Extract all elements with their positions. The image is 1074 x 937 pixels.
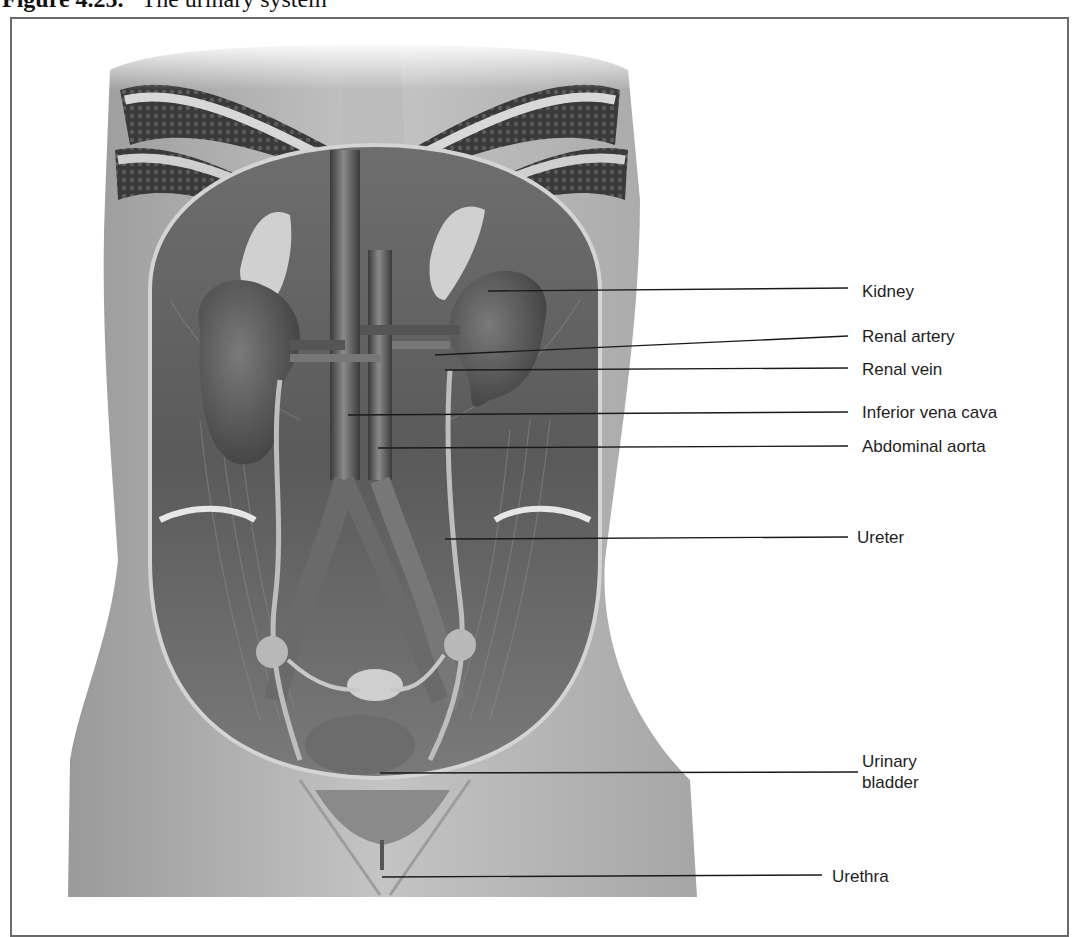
label-renal-artery: Renal artery xyxy=(862,326,955,347)
abdominal-aorta-shape xyxy=(368,250,392,480)
label-abdominal-aorta: Abdominal aorta xyxy=(862,436,986,457)
label-urinary-bladder: Urinary bladder xyxy=(862,751,952,793)
inferior-vena-cava-shape xyxy=(330,150,360,480)
label-ureter: Ureter xyxy=(857,527,904,548)
leader-line-urinary-bladder xyxy=(380,772,858,773)
label-kidney: Kidney xyxy=(862,281,914,302)
label-inferior-vena-cava: Inferior vena cava xyxy=(862,402,997,423)
urethra-shape xyxy=(380,840,384,870)
label-renal-vein: Renal vein xyxy=(862,359,942,380)
urinary-bladder-shape xyxy=(305,715,415,775)
label-urethra: Urethra xyxy=(832,866,889,887)
